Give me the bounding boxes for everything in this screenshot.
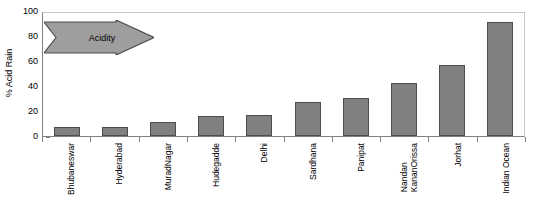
x-label-slot: Bhubaneswar — [42, 143, 90, 218]
x-tick-mark — [42, 137, 43, 142]
bar — [343, 98, 369, 136]
bar — [439, 65, 465, 136]
x-tick-mark — [90, 137, 91, 142]
arrow-right-icon — [44, 20, 154, 55]
x-tick-mark — [139, 137, 140, 142]
bar-slot — [332, 13, 380, 136]
x-axis-category-label: Sardhana — [308, 143, 318, 180]
x-tick-mark — [187, 137, 188, 142]
x-axis-category-label: Jorhat — [453, 143, 463, 167]
x-axis-labels: BhubaneswarHyderabadMuradNagarHudegaddeD… — [42, 143, 525, 218]
x-axis-category-label: Indian Ocean — [501, 143, 511, 194]
x-axis-category-line: Nandan — [399, 143, 409, 192]
y-tick-label: 60 — [8, 57, 38, 66]
y-axis-ticks: 020406080100 — [8, 0, 38, 218]
acidity-arrow-annotation: Acidity — [44, 20, 154, 55]
x-axis-category-label: Hyderabad — [114, 143, 124, 185]
x-label-slot: NandanKananOrissa — [380, 143, 428, 218]
y-tick-label: 20 — [8, 107, 38, 116]
bar — [246, 115, 272, 136]
x-tick-mark — [380, 137, 381, 142]
acid-rain-bar-chart: % Acid Rain 020406080100 Acidity Bhubane… — [0, 0, 539, 218]
x-tick-mark — [235, 137, 236, 142]
x-axis-category-label: Hudegadde — [211, 143, 221, 187]
bar — [391, 83, 417, 136]
x-axis-category-label: MuradNagar — [163, 143, 173, 190]
y-tick-label: 40 — [8, 82, 38, 91]
x-tick-mark — [332, 137, 333, 142]
bar-slot — [187, 13, 235, 136]
y-tick-label: 0 — [8, 132, 38, 141]
bar — [54, 127, 80, 136]
x-axis-category-label: Panipat — [356, 143, 366, 172]
bar — [198, 116, 224, 136]
x-axis-category-label: Bhubaneswar — [66, 143, 76, 195]
x-label-slot: Jorhat — [428, 143, 476, 218]
y-tick-label: 80 — [8, 32, 38, 41]
bar — [487, 22, 513, 136]
x-label-slot: Delhi — [235, 143, 283, 218]
x-axis-category-label: NandanKananOrissa — [399, 143, 419, 192]
bar-slot — [235, 13, 283, 136]
bar-slot — [283, 13, 331, 136]
bar-slot — [428, 13, 476, 136]
bar — [295, 102, 321, 136]
x-axis-category-label: Delhi — [259, 143, 269, 162]
x-tick-mark — [477, 137, 478, 142]
x-label-slot: MuradNagar — [139, 143, 187, 218]
x-label-slot: Panipat — [332, 143, 380, 218]
x-tick-mark — [284, 137, 285, 142]
x-label-slot: Hudegadde — [187, 143, 235, 218]
x-tick-mark — [428, 137, 429, 142]
x-label-slot: Sardhana — [283, 143, 331, 218]
x-label-slot: Indian Ocean — [477, 143, 525, 218]
bar-slot — [476, 13, 524, 136]
x-axis-category-line: KananOrissa — [409, 143, 419, 192]
bar — [102, 127, 128, 136]
x-label-slot: Hyderabad — [90, 143, 138, 218]
y-tick-label: 100 — [8, 7, 38, 16]
bar-slot — [380, 13, 428, 136]
bar — [150, 122, 176, 136]
x-tick-mark — [525, 137, 526, 142]
